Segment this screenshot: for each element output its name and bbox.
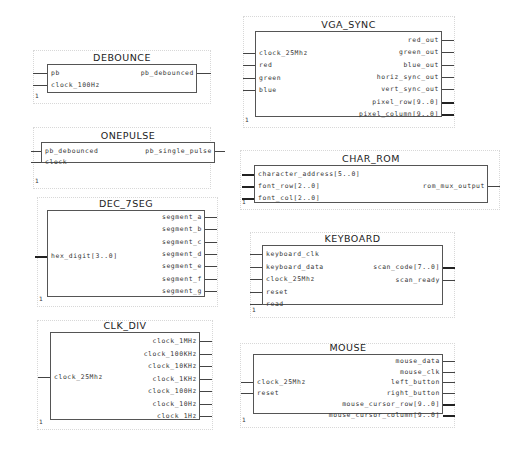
vga-sync-output-pin[interactable] — [442, 52, 454, 53]
dec-7seg-output-pin[interactable] — [205, 254, 217, 255]
onepulse-output-pin[interactable] — [215, 151, 225, 152]
vga-sync-input-green: green — [259, 74, 281, 82]
char-rom-output-pin[interactable] — [488, 186, 500, 187]
vga-sync-output-pixel-column-9-0: pixel_column[9..0] — [359, 110, 439, 118]
mouse-input-pin[interactable] — [241, 393, 253, 394]
dec-7seg-title: DEC_7SEG — [47, 198, 205, 209]
clk-div-input-pin[interactable] — [38, 377, 50, 378]
clk-div-output-pin[interactable] — [200, 391, 212, 392]
clk-div-output-pin[interactable] — [200, 404, 212, 405]
keyboard-input-clock-25mhz: clock_25Mhz — [266, 275, 315, 283]
vga-sync-output-pin[interactable] — [442, 40, 454, 41]
dec-7seg-output-segment-e: segment_e — [162, 262, 202, 270]
char-rom-input-font-row-2-0: font_row[2..0] — [258, 182, 320, 190]
clk-div-output-pin[interactable] — [200, 379, 212, 380]
onepulse-instance-number: 1 — [35, 177, 39, 184]
keyboard-input-pin[interactable] — [250, 279, 262, 280]
dec-7seg-output-pin[interactable] — [205, 266, 217, 267]
vga-sync-output-green-out: green_out — [399, 48, 439, 56]
vga-sync-input-pin[interactable] — [243, 90, 255, 91]
dec-7seg-output-pin[interactable] — [205, 242, 217, 243]
vga-sync-output-pin[interactable] — [442, 102, 454, 104]
dec-7seg-output-segment-a: segment_a — [162, 213, 202, 221]
vga-sync-instance-number: 1 — [245, 116, 249, 123]
vga-sync-output-pin[interactable] — [442, 89, 454, 90]
dec-7seg-input-hex-digit-3-0: hex_digit[3..0] — [51, 252, 118, 260]
mouse-input-pin[interactable] — [241, 382, 253, 383]
dec-7seg-output-pin[interactable] — [205, 229, 217, 230]
mouse-title: MOUSE — [253, 342, 443, 353]
mouse-output-pin[interactable] — [443, 382, 455, 383]
clk-div-output-pin[interactable] — [200, 366, 212, 367]
dec-7seg-output-pin[interactable] — [205, 279, 217, 280]
mouse-output-pin[interactable] — [443, 361, 455, 362]
onepulse-input-pin[interactable] — [31, 162, 41, 163]
clk-div-title: CLK_DIV — [50, 320, 200, 331]
char-rom-input-pin[interactable] — [242, 186, 254, 188]
debounce-input-pin[interactable] — [33, 85, 47, 86]
mouse-input-reset: reset — [257, 389, 279, 397]
clk-div-output-clock-1khz: clock_1KHz — [153, 375, 197, 383]
dec-7seg-output-segment-c: segment_c — [162, 238, 202, 246]
clk-div-output-clock-100khz: clock_100KHz — [144, 350, 197, 358]
vga-sync-output-vert-sync-out: vert_sync_out — [381, 85, 439, 93]
char-rom-input-character-address-5-0: character_address[5..0] — [258, 170, 360, 178]
mouse-output-pin[interactable] — [443, 404, 455, 406]
vga-sync-input-clock-25mhz: clock_25Mhz — [259, 49, 308, 57]
onepulse-input-clock: clock — [45, 158, 67, 166]
vga-sync-input-blue: blue — [259, 86, 277, 94]
clk-div-output-pin[interactable] — [200, 354, 212, 355]
mouse-output-left-button: left_button — [391, 378, 440, 386]
vga-sync-input-pin[interactable] — [243, 53, 255, 54]
vga-sync-output-red-out: red_out — [408, 36, 439, 44]
vga-sync-input-pin[interactable] — [243, 78, 255, 79]
keyboard-instance-number: 1 — [252, 306, 256, 313]
vga-sync-title: VGA_SYNC — [255, 19, 442, 30]
debounce-output-pin[interactable] — [197, 73, 211, 74]
dec-7seg-output-pin[interactable] — [205, 217, 217, 218]
clk-div-input-clock-25mhz: clock_25Mhz — [54, 373, 103, 381]
dec-7seg-output-segment-b: segment_b — [162, 225, 202, 233]
debounce-input-pin[interactable] — [33, 73, 47, 74]
char-rom-input-font-col-2-0: font_col[2..0] — [258, 194, 320, 202]
clk-div-instance-number: 1 — [39, 418, 43, 425]
dec-7seg-output-pin[interactable] — [205, 291, 217, 292]
clk-div-output-clock-1mhz: clock_1MHz — [153, 337, 197, 345]
keyboard-output-scan-code-7-0: scan_code[7..0] — [373, 263, 440, 271]
vga-sync-output-horiz-sync-out: horiz_sync_out — [377, 73, 439, 81]
dec-7seg-instance-number: 1 — [39, 295, 43, 302]
clk-div-output-clock-10hz: clock_10Hz — [153, 400, 197, 408]
vga-sync-output-pin[interactable] — [442, 114, 454, 116]
vga-sync-output-pin[interactable] — [442, 65, 454, 66]
mouse-output-pin[interactable] — [443, 372, 455, 373]
vga-sync-output-blue-out: blue_out — [403, 61, 439, 69]
mouse-output-mouse-clk: mouse_clk — [400, 368, 440, 376]
keyboard-input-read: read — [266, 300, 284, 308]
vga-sync-input-red: red — [259, 61, 272, 69]
vga-sync-input-pin[interactable] — [243, 65, 255, 66]
vga-sync-output-pin[interactable] — [442, 77, 454, 78]
clk-div-output-pin[interactable] — [200, 416, 212, 417]
debounce-input-pb: pb — [51, 69, 60, 77]
clk-div-output-pin[interactable] — [200, 341, 212, 342]
dec-7seg-output-segment-f: segment_f — [162, 275, 202, 283]
keyboard-input-pin[interactable] — [250, 267, 262, 268]
char-rom-input-pin[interactable] — [242, 198, 254, 200]
keyboard-output-pin[interactable] — [443, 267, 455, 269]
dec-7seg-input-pin[interactable] — [35, 256, 47, 258]
keyboard-input-pin[interactable] — [250, 292, 262, 293]
dec-7seg-output-segment-d: segment_d — [162, 250, 202, 258]
onepulse-title: ONEPULSE — [41, 130, 215, 141]
mouse-output-mouse-data: mouse_data — [396, 357, 440, 365]
clk-div-output-clock-10khz: clock_10KHz — [148, 362, 197, 370]
mouse-output-pin[interactable] — [443, 415, 455, 417]
mouse-instance-number: 1 — [242, 416, 246, 423]
keyboard-input-pin[interactable] — [250, 254, 262, 255]
debounce-input-clock-100hz: clock_100Hz — [51, 81, 100, 89]
keyboard-input-pin[interactable] — [250, 304, 262, 305]
mouse-output-pin[interactable] — [443, 393, 455, 394]
onepulse-input-pin[interactable] — [31, 151, 41, 152]
debounce-instance-number: 1 — [35, 92, 39, 99]
keyboard-output-pin[interactable] — [443, 280, 455, 281]
char-rom-input-pin[interactable] — [242, 174, 254, 176]
